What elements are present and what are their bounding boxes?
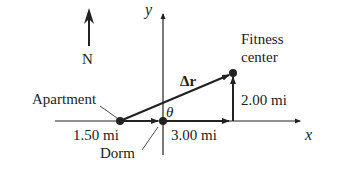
- displacement-label: Δr⃗: [180, 73, 208, 89]
- apartment-leader: [100, 106, 117, 118]
- segment-north-leg-label: 2.00 mi: [241, 92, 287, 108]
- fitness-point: [229, 69, 237, 77]
- fitness-label-line1: Fitness: [241, 31, 284, 47]
- apartment-point: [116, 117, 124, 125]
- north-arrow-icon: [84, 8, 94, 46]
- y-axis-label: y: [143, 1, 153, 19]
- displacement-diagram: N x y Apartment Dorm Fitness center 1.50…: [0, 0, 338, 177]
- compass-label: N: [82, 51, 93, 67]
- dorm-label: Dorm: [100, 145, 135, 161]
- apartment-label: Apartment: [32, 91, 97, 107]
- fitness-label-line2: center: [241, 49, 278, 65]
- angle-label: θ: [166, 104, 174, 120]
- x-axis-label: x: [304, 126, 312, 143]
- segment-dorm-east-label: 3.00 mi: [171, 127, 217, 143]
- displacement-vector: [120, 75, 229, 121]
- dorm-leader: [142, 127, 158, 150]
- segment-apartment-to-dorm-label: 1.50 mi: [73, 127, 119, 143]
